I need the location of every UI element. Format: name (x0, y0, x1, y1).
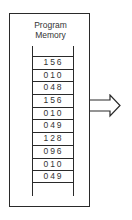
memory-cell: 010 (32, 69, 73, 82)
memory-cell: 049 (32, 170, 73, 183)
memory-cell: 096 (32, 145, 73, 158)
program-memory-title: Program Memory (9, 20, 92, 40)
memory-stack: 156010048156010049128096010049 (32, 56, 73, 183)
memory-stack-right-rail (73, 46, 74, 196)
memory-cell: 049 (32, 119, 73, 132)
title-line-1: Program (9, 20, 92, 30)
memory-cell: 048 (32, 81, 73, 94)
memory-cell: 156 (32, 56, 73, 69)
memory-cell: 010 (32, 158, 73, 171)
right-arrow-icon (90, 94, 130, 118)
memory-cell: 128 (32, 132, 73, 145)
title-line-2: Memory (9, 30, 92, 40)
memory-cell: 156 (32, 94, 73, 107)
memory-cell: 010 (32, 107, 73, 120)
